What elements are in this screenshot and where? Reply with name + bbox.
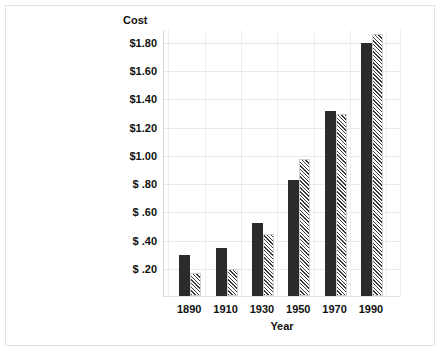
bar-group [361,30,383,296]
y-tick-label: $ .40 [133,236,157,247]
y-tick-label: $1.40 [129,94,157,105]
bar-hatched-1990 [372,34,383,296]
bar-chart-figure: Cost $1.80 $1.60 $1.40 $1.20 $1.00 $ .80… [0,0,440,351]
bar-hatched-1970 [336,114,347,296]
bar-group [288,30,310,296]
y-tick-label: $ .20 [133,264,157,275]
bar-hatched-1890 [190,273,201,296]
plot-area [163,30,401,297]
y-tick-label: $1.20 [129,123,157,134]
x-tick-label: 1890 [169,303,209,315]
x-tick-label: 1930 [242,303,282,315]
y-tick-label: $ .60 [133,207,157,218]
bar-solid-1930 [252,223,263,296]
bar-solid-1910 [216,248,227,296]
bars-layer [164,30,400,296]
bar-hatched-1950 [299,159,310,296]
y-tick-label: $1.60 [129,66,157,77]
bar-group [216,30,238,296]
y-tick-label: $ .80 [133,179,157,190]
x-tick-label: 1950 [278,303,318,315]
y-axis-tick-labels: $1.80 $1.60 $1.40 $1.20 $1.00 $ .80 $ .6… [93,30,157,297]
bar-group [179,30,201,296]
x-tick-label: 1970 [315,303,355,315]
bar-hatched-1930 [263,234,274,296]
bar-solid-1990 [361,43,372,296]
x-tick-label: 1910 [206,303,246,315]
y-tick-label: $1.80 [129,38,157,49]
y-tick-label: $1.00 [129,151,157,162]
x-tick-label: 1990 [351,303,391,315]
bar-solid-1950 [288,180,299,296]
bar-solid-1970 [325,111,336,296]
bar-solid-1890 [179,255,190,296]
y-axis-title: Cost [123,14,147,26]
bar-group [325,30,347,296]
bar-hatched-1910 [227,269,238,296]
x-axis-title: Year [163,320,401,332]
bar-group [252,30,274,296]
